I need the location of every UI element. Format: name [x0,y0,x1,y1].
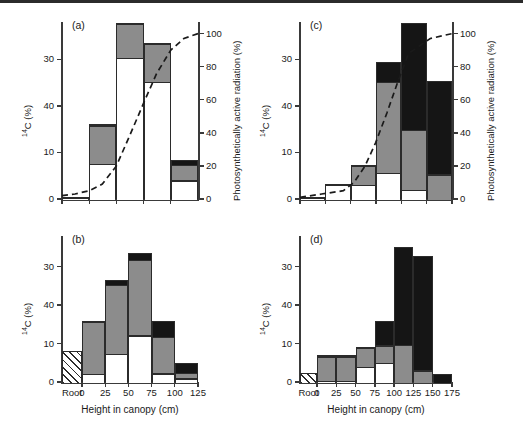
bar-d-6 [433,374,452,382]
bar-segment-gray-d-4 [395,345,412,383]
panel-d: 010403014C (%)(d)Root0255075100125150175… [0,0,523,434]
bar-d-4 [394,247,413,382]
bar-segment-divider [357,348,374,349]
bar-segment-gray-d-0 [318,356,335,380]
x-axis-title-d: Height in canopy (cm) [276,404,476,415]
y-tick-d-3 [295,266,300,267]
bar-segment-black-d-6 [434,375,451,383]
bar-segment-divider [414,370,431,371]
bar-segment-gray-d-1 [337,356,354,380]
y-axis-d [299,236,301,383]
bar-segment-divider [376,345,393,346]
y-tick-label-d-0: 0 [266,377,292,387]
x-tick-label-d-8: 175 [436,388,468,398]
y-tick-label-d-3: 30 [266,262,292,272]
y-tick-label-d-1: 10 [266,339,292,349]
bar-segment-divider [357,367,374,368]
y-axis-title-d: 14C (%) [258,303,271,335]
bar-segment-black-d-4 [395,248,412,345]
bar-segment-divider [337,356,354,357]
bar-segment-black-d-5 [414,257,431,370]
y-tick-d-1 [295,343,300,344]
y-axis-title-superscript: 14 [259,327,266,335]
y-axis-title-text: C (%) [260,303,271,327]
bar-segment-divider [318,356,335,357]
bar-d-1 [336,355,355,382]
bar-segment-gray-d-5 [414,370,431,383]
y-tick-d-2 [295,304,300,305]
bar-segment-divider [395,345,412,346]
bar-segment-divider [376,363,393,364]
bar-segment-white-d-3 [376,363,393,383]
bar-d-3 [375,321,394,382]
bar-segment-white-d-2 [357,367,374,383]
bar-segment-gray-d-3 [376,345,393,363]
bar-d-root-root [300,373,317,382]
bar-d-2 [356,347,375,382]
bar-d-0 [317,355,336,382]
bar-segment-gray-d-2 [357,348,374,367]
bar-d-5 [413,256,432,382]
bar-segment-hatch-d-root-root [301,374,316,383]
bar-segment-black-d-3 [376,322,393,346]
panel-label-d: (d) [310,234,323,245]
bar-segment-divider [318,381,335,382]
bar-segment-divider [337,381,354,382]
